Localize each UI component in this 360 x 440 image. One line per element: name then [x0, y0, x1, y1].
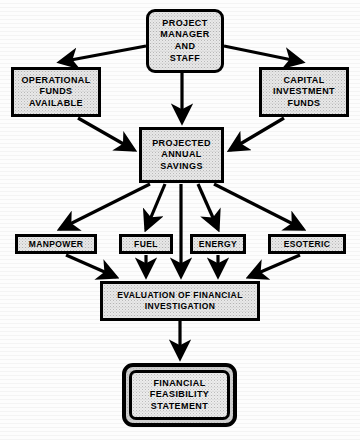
- edge-projected-to-esoteric: [214, 184, 303, 229]
- edge-projected-to-manpower: [60, 184, 150, 229]
- node-line: SAVINGS: [160, 161, 203, 173]
- node-line: MANPOWER: [29, 239, 84, 250]
- node-line: FEASIBILITY: [150, 389, 209, 401]
- edge-projected-to-fuel: [146, 184, 165, 229]
- node-line: ANNUAL: [161, 149, 201, 161]
- edge-capital-to-projected: [230, 118, 284, 150]
- node-line: ESOTERIC: [284, 239, 331, 250]
- edge-pm-to-capital: [224, 46, 302, 62]
- node-inner-frame: FINANCIAL FEASIBILITY STATEMENT: [129, 370, 230, 420]
- node-line: FUNDS: [40, 86, 73, 98]
- node-energy[interactable]: ENERGY: [190, 234, 246, 254]
- edge-projected-to-energy: [198, 184, 218, 229]
- flowchart-diagram: PROJECT MANAGER AND STAFF OPERATIONAL FU…: [0, 0, 360, 440]
- node-line: MANAGER: [160, 29, 209, 41]
- node-operational-funds-available[interactable]: OPERATIONAL FUNDS AVAILABLE: [11, 67, 101, 117]
- node-line: INVESTMENT: [273, 86, 335, 98]
- edge-esoteric-to-evaluation: [249, 255, 300, 277]
- node-line: PROJECTED: [152, 138, 211, 150]
- edge-operational-to-projected: [78, 118, 134, 150]
- node-line: INVESTIGATION: [145, 301, 216, 312]
- node-manpower[interactable]: MANPOWER: [15, 234, 97, 254]
- node-evaluation-of-financial-investigation[interactable]: EVALUATION OF FINANCIAL INVESTIGATION: [100, 281, 260, 321]
- node-line: STATEMENT: [151, 401, 208, 413]
- node-line: PROJECT: [162, 18, 207, 30]
- node-projected-annual-savings[interactable]: PROJECTED ANNUAL SAVINGS: [139, 127, 224, 183]
- node-line: CAPITAL: [283, 75, 324, 87]
- node-financial-feasibility-statement[interactable]: FINANCIAL FEASIBILITY STATEMENT: [122, 363, 237, 427]
- node-line: EVALUATION OF FINANCIAL: [117, 290, 243, 301]
- node-line: FUEL: [134, 239, 158, 250]
- node-line: ENERGY: [199, 239, 237, 250]
- node-line: FUNDS: [288, 98, 321, 110]
- node-line: AND: [175, 41, 196, 53]
- node-fuel[interactable]: FUEL: [119, 234, 173, 254]
- node-esoteric[interactable]: ESOTERIC: [268, 234, 346, 254]
- node-line: AVAILABLE: [29, 98, 83, 110]
- edge-pm-to-operational: [60, 46, 146, 62]
- node-line: FINANCIAL: [153, 378, 205, 390]
- node-capital-investment-funds[interactable]: CAPITAL INVESTMENT FUNDS: [259, 67, 349, 117]
- node-project-manager-and-staff[interactable]: PROJECT MANAGER AND STAFF: [146, 9, 224, 73]
- node-line: STAFF: [170, 53, 200, 65]
- node-line: OPERATIONAL: [21, 75, 90, 87]
- edge-manpower-to-evaluation: [66, 255, 116, 277]
